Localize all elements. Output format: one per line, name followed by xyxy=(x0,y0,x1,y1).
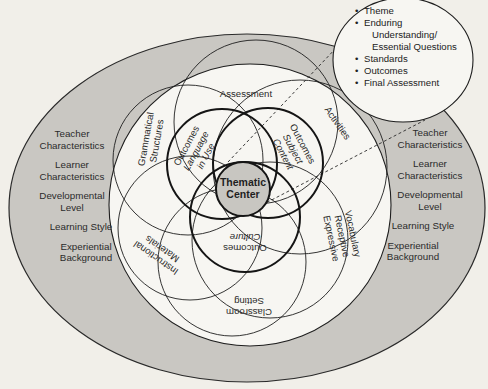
outcome-culture-label: Outcomes Culture xyxy=(223,232,267,254)
right-factor-developmental: DevelopmentalLevel xyxy=(380,189,480,212)
left-factor-learning-style: Learning Style xyxy=(22,221,122,233)
thematic-center-label-2: Center xyxy=(226,188,259,200)
right-factor-learner: LearnerCharacteristics xyxy=(380,158,480,181)
svg-text:Outcomes: Outcomes xyxy=(223,243,267,254)
right-factor-experiential: ExperientialBackground xyxy=(380,240,480,263)
right-context-factors: TeacherCharacteristics LearnerCharacteri… xyxy=(380,127,480,271)
svg-text:Setting: Setting xyxy=(234,296,264,307)
right-factor-teacher: TeacherCharacteristics xyxy=(380,127,480,150)
left-factor-teacher: TeacherCharacteristics xyxy=(22,128,122,151)
svg-text:Classroom: Classroom xyxy=(226,307,272,318)
left-factor-experiential: ExperientialBackground xyxy=(22,241,122,264)
left-context-factors: TeacherCharacteristics LearnerCharacteri… xyxy=(22,128,122,272)
thematic-center-label-1: Thematic xyxy=(220,176,266,188)
left-factor-developmental: DevelopmentalLevel xyxy=(22,190,122,213)
left-factor-learner: LearnerCharacteristics xyxy=(22,159,122,182)
callout-list: Theme Enduring Understanding/ Essential … xyxy=(355,5,485,89)
thematic-planning-diagram: Thematic Center Outcomes Language in Use… xyxy=(0,0,488,389)
svg-text:Culture: Culture xyxy=(230,232,261,243)
callout-item-enduring-cont1: Understanding/ xyxy=(355,29,485,41)
right-factor-learning-style: Learning Style xyxy=(380,220,480,232)
callout-item-theme: Theme xyxy=(355,5,485,17)
callout-item-outcomes: Outcomes xyxy=(355,65,485,77)
petal-assessment-label: Assessment xyxy=(220,88,273,99)
callout-item-enduring-cont2: Essential Questions xyxy=(355,41,485,53)
callout-item-enduring: Enduring xyxy=(355,17,485,29)
callout-item-standards: Standards xyxy=(355,53,485,65)
callout-item-final-assessment: Final Assessment xyxy=(355,77,485,89)
